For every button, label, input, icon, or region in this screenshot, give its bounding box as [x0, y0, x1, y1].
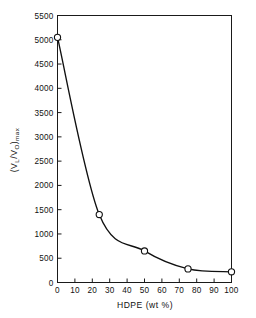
x-axis-ticks	[58, 279, 232, 283]
x-tick-label: 0	[55, 286, 60, 295]
y-tick-label: 4000	[34, 84, 53, 93]
y-tick-label: 3500	[34, 109, 53, 118]
y-tick-label: 2500	[34, 157, 53, 166]
y-tick-label: 1000	[34, 230, 53, 239]
data-series-line	[58, 37, 232, 271]
x-tick-label: 100	[224, 286, 239, 295]
y-title-close-sub: max	[13, 127, 20, 141]
chart-figure: 0500100015002000250030003500400045005000…	[0, 0, 256, 318]
x-tick-label: 30	[105, 286, 115, 295]
y-tick-label: 3000	[34, 133, 53, 142]
x-tick-label: 80	[192, 286, 202, 295]
x-tick-label: 40	[122, 286, 132, 295]
x-tick-label: 90	[209, 286, 219, 295]
y-tick-label: 0	[49, 279, 54, 288]
x-axis-tick-labels: 0102030405060708090100	[55, 286, 239, 295]
x-tick-label: 60	[157, 286, 167, 295]
data-point-markers	[54, 34, 234, 275]
y-tick-label: 5000	[34, 36, 53, 45]
x-tick-label: 10	[70, 286, 80, 295]
data-point-marker	[185, 266, 191, 272]
svg-text:(VL/VO)max: (VL/VO)max	[9, 127, 20, 172]
x-tick-label: 70	[175, 286, 185, 295]
y-tick-label: 5500	[34, 12, 53, 21]
y-tick-label: 2000	[34, 181, 53, 190]
data-point-marker	[54, 34, 60, 40]
data-point-marker	[141, 248, 147, 254]
plot-frame	[58, 16, 232, 283]
y-tick-label: 500	[39, 254, 54, 263]
x-tick-label: 50	[140, 286, 150, 295]
y-tick-label: 1500	[34, 206, 53, 215]
data-point-marker	[228, 269, 234, 275]
x-axis-title: HDPE (wt %)	[117, 300, 173, 310]
x-tick-label: 20	[88, 286, 98, 295]
y-tick-label: 4500	[34, 60, 53, 69]
y-axis-tick-labels: 0500100015002000250030003500400045005000…	[34, 12, 53, 288]
y-axis-title: (VL/VO)max	[9, 127, 20, 172]
data-point-marker	[96, 211, 102, 217]
chart-canvas: 0500100015002000250030003500400045005000…	[0, 0, 256, 318]
